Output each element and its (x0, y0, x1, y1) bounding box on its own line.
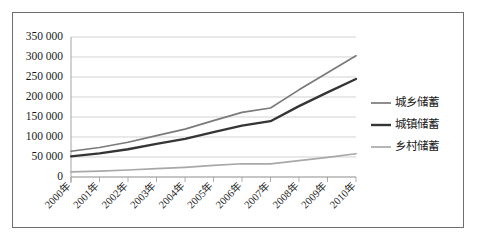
y-tick-label: 0 (57, 170, 63, 182)
y-tick-label: 50 000 (31, 150, 63, 162)
x-tick-label: 2002年 (99, 180, 129, 210)
x-tick-label: 2000年 (42, 180, 72, 210)
x-tick-label: 2005年 (185, 180, 215, 210)
x-tick-label: 2009年 (299, 180, 329, 210)
x-tick-label: 2004年 (156, 180, 186, 210)
x-tick-label: 2007年 (242, 180, 272, 210)
x-tick-label: 2006年 (213, 180, 243, 210)
y-tick-label: 150 000 (26, 110, 64, 122)
y-axis-tick-labels: 050 000100 000150 000200 000250 000300 0… (26, 30, 64, 182)
legend-label-1: 城乡储蓄 (395, 95, 439, 108)
axes-group (71, 37, 356, 183)
legend-label-2: 城镇储蓄 (395, 117, 439, 130)
y-tick-label: 200 000 (26, 90, 64, 102)
gridlines-group (71, 37, 356, 177)
x-tick-label: 2003年 (128, 180, 158, 210)
y-tick-label: 350 000 (26, 30, 64, 42)
x-axis-tick-labels: 2000年2001年2002年2003年2004年2005年2006年2007年… (42, 180, 357, 210)
series-lines-group (71, 56, 356, 172)
series-line-3 (71, 154, 356, 172)
chart-frame: 050 000100 000150 000200 000250 000300 0… (12, 12, 464, 228)
x-tick-label: 2010年 (327, 180, 357, 210)
y-tick-label: 300 000 (26, 50, 64, 62)
y-tick-label: 250 000 (26, 70, 64, 82)
x-tick-label: 2008年 (270, 180, 300, 210)
legend-label-3: 乡村储蓄 (395, 139, 439, 152)
savings-line-chart: 050 000100 000150 000200 000250 000300 0… (13, 13, 465, 229)
x-tick-label: 2001年 (71, 180, 101, 210)
legend: 城乡储蓄城镇储蓄乡村储蓄 (371, 95, 439, 152)
chart-page: 050 000100 000150 000200 000250 000300 0… (0, 0, 477, 244)
x-axis-tickmarks (71, 177, 356, 182)
y-tick-label: 100 000 (26, 130, 64, 142)
